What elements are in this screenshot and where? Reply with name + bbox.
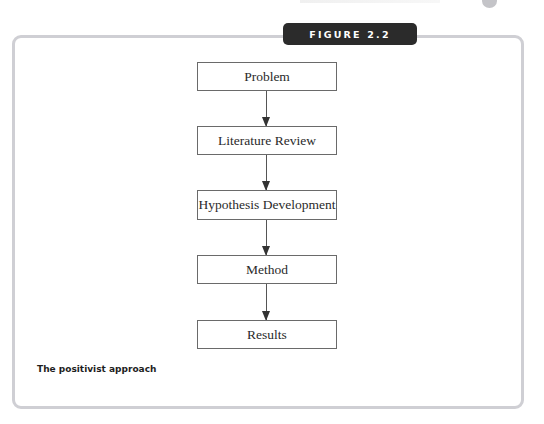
step-literature-review: Literature Review — [197, 126, 337, 155]
step-problem: Problem — [197, 62, 337, 91]
step-label: Method — [246, 262, 288, 278]
arrow-down-icon — [266, 155, 267, 190]
step-label: Results — [247, 327, 287, 343]
figure-label-tab: FIGURE 2.2 — [283, 23, 417, 45]
step-label: Hypothesis Development — [199, 197, 336, 213]
page-marker-dot — [482, 0, 497, 8]
figure-caption: The positivist approach — [37, 364, 156, 374]
arrow-down-icon — [266, 220, 267, 255]
step-label: Literature Review — [218, 133, 316, 149]
figure-label: FIGURE 2.2 — [309, 29, 390, 40]
step-label: Problem — [244, 69, 290, 85]
figure-frame — [12, 35, 524, 409]
arrow-down-icon — [266, 91, 267, 126]
arrow-down-icon — [266, 284, 267, 320]
step-results: Results — [197, 320, 337, 349]
step-method: Method — [197, 255, 337, 284]
step-hypothesis-development: Hypothesis Development — [197, 190, 337, 220]
header-remnant — [300, 0, 440, 3]
